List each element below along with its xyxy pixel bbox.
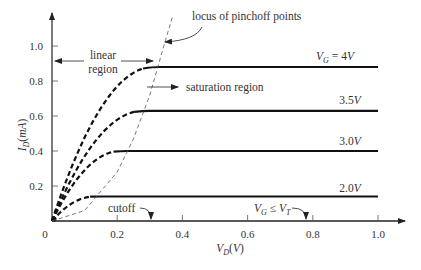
y-tick-label: 0.4 — [29, 145, 43, 157]
y-tick-label: 1.0 — [29, 40, 43, 52]
x-tick-label: 1.0 — [371, 228, 385, 240]
vg-le-vt-label: VG ≤ VT — [254, 202, 291, 217]
label-vg-2.0v: 2.0V — [339, 182, 362, 194]
y-tick-label: 0.8 — [29, 75, 43, 87]
label-vg-4v: VG = 4V — [316, 50, 356, 65]
cutoff-arrow — [140, 208, 151, 219]
curve-v-g-4v-linear — [52, 69, 143, 222]
y-tick-label: 0.6 — [29, 110, 43, 122]
x-tick-label: 0.8 — [306, 228, 320, 240]
origin-label: 0 — [42, 228, 48, 240]
y-axis-label: ID(mA) — [16, 119, 31, 153]
x-tick-label: 0.4 — [176, 228, 190, 240]
label-vg-3.0v: 3.0V — [339, 135, 362, 147]
mosfet-iv-chart: 0.20.40.60.81.0 0.20.40.60.81.0 0 VD(V) … — [0, 0, 421, 270]
x-tick-label: 0.6 — [241, 228, 255, 240]
linear-region-label-line2: region — [88, 63, 118, 76]
x-axis-label: VD(V) — [216, 242, 244, 257]
curve-v-g-4v-saturation — [143, 67, 378, 69]
locus-arrow — [165, 27, 202, 42]
curve-2.0v-linear — [52, 197, 90, 221]
cutoff-label: cutoff — [108, 202, 135, 214]
linear-region-label-line1: linear — [90, 49, 116, 61]
curve-3.5v-saturation — [134, 111, 378, 112]
curve-3.0v-saturation — [114, 151, 378, 152]
saturation-region-label: saturation region — [186, 81, 264, 94]
y-tick-label: 0.2 — [29, 180, 43, 192]
vg-le-vt-arrow — [292, 208, 306, 219]
locus-label: locus of pinchoff points — [192, 10, 302, 23]
curve-3.0v-linear — [52, 152, 114, 221]
label-vg-3.5v: 3.5V — [339, 94, 362, 106]
x-tick-label: 0.2 — [110, 228, 124, 240]
